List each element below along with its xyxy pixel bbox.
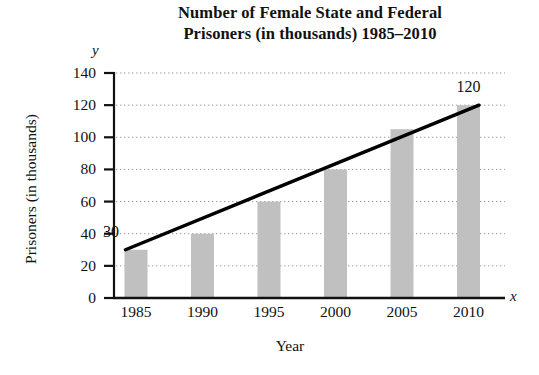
data-point-label: 120 [439, 79, 499, 95]
bars [125, 105, 481, 298]
gridlines [116, 73, 505, 266]
data-point-label: 30 [81, 224, 141, 240]
y-axis-tick-label: 20 [50, 258, 96, 274]
chart-figure: Number of Female State and Federal Priso… [0, 0, 539, 375]
x-axis-tick-label: 2010 [434, 304, 504, 320]
x-axis-tick-label: 1995 [234, 304, 304, 320]
y-axis-tick-label: 120 [50, 97, 96, 113]
trend-line [126, 105, 480, 250]
bar [324, 169, 347, 298]
y-axis-tick-label: 100 [50, 129, 96, 145]
y-axis-tick-label: 140 [50, 65, 96, 81]
y-axis-tick-label: 60 [50, 194, 96, 210]
y-axis-ticks [104, 73, 114, 298]
bar [125, 250, 148, 298]
x-axis-tick-label: 1990 [168, 304, 238, 320]
bar [457, 105, 480, 298]
x-axis-tick-label: 1985 [101, 304, 171, 320]
y-axis-tick-label: 0 [50, 290, 96, 306]
x-axis-tick-label: 2000 [301, 304, 371, 320]
y-axis-tick-label: 80 [50, 161, 96, 177]
x-axis-tick-label: 2005 [367, 304, 437, 320]
bar [391, 129, 414, 298]
bar [258, 202, 281, 298]
bar [191, 234, 214, 298]
